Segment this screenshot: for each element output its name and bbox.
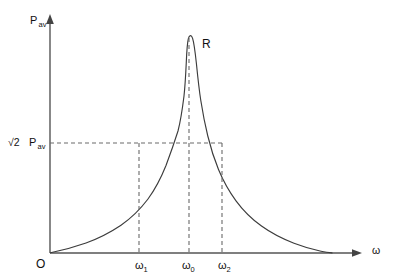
omega-1-subscript: 1 [144, 265, 148, 274]
resonance-curve-plot: P av √2 P av O ω ω 1 ω 0 ω 2 [0, 0, 398, 278]
x-tick-label-omega-1: ω 1 [135, 259, 148, 274]
x-tick-label-omega-0: ω 0 [182, 259, 195, 274]
half-power-level-label: √2 P av [8, 136, 46, 151]
x-axis-arrowhead [352, 249, 362, 257]
x-axis-label: ω [372, 244, 380, 256]
half-power-subscript: av [38, 142, 46, 151]
omega-0-subscript: 0 [191, 265, 195, 274]
origin-label: O [36, 257, 45, 271]
guide-lines-group [50, 38, 222, 253]
curve-group [51, 36, 333, 253]
y-axis-label: P av [30, 14, 47, 29]
x-tick-labels-group: ω 1 ω 0 ω 2 [135, 259, 231, 274]
y-axis-arrowhead [46, 14, 54, 24]
resonance-curve-path [51, 36, 333, 253]
y-axis-label-symbol: P [30, 14, 37, 26]
half-power-symbol: P [29, 136, 36, 148]
resonance-point-label: R [202, 37, 211, 51]
x-tick-label-omega-2: ω 2 [218, 259, 231, 274]
half-power-radical: √2 [8, 136, 20, 148]
resonance-curve-figure: P av √2 P av O ω ω 1 ω 0 ω 2 [0, 0, 398, 278]
y-axis-label-subscript: av [39, 20, 47, 29]
omega-2-subscript: 2 [227, 265, 231, 274]
